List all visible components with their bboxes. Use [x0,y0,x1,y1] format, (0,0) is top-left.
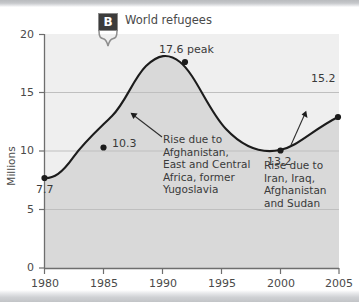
data-point-1985 [100,144,106,150]
value-label-1985: 10.3 [112,137,137,150]
x-tick-label-1980: 1980 [25,277,65,290]
x-tick-label-2000: 2000 [261,277,301,290]
annotation-right: Rise due to Iran, Iraq, Afghanistan and … [264,159,327,209]
data-point-1980 [41,175,47,181]
annotation-right-line-1: Rise due to [264,159,327,172]
annotation-left-line-4: Africa, former [163,171,250,184]
chart-title: World refugees [125,13,212,27]
data-point-2000 [277,147,283,153]
annotation-left-line-5: Yugoslavia [163,183,250,196]
value-label-peak: 17.6 peak [159,43,214,56]
data-point-2005 [335,114,341,120]
panel-badge-b: B [99,14,117,30]
annotation-right-line-2: Iran, Iraq, [264,172,327,185]
y-tick-label-20: 20 [10,28,34,41]
annotation-right-line-4: and Sudan [264,197,327,210]
figure-panel-b: B World refugees Millions 20 15 10 5 0 1… [0,0,359,302]
x-tick-label-1990: 1990 [143,277,183,290]
value-label-2005: 15.2 [311,72,336,85]
x-tick-label-1985: 1985 [84,277,124,290]
y-tick-label-0: 0 [10,261,34,274]
annotation-left-line-1: Rise due to [163,133,250,146]
y-tick-label-5: 5 [10,203,34,216]
data-point-1992-peak [182,59,188,65]
x-tick-label-2005: 2005 [319,277,359,290]
value-label-1980: 7.7 [36,183,54,196]
annotation-right-line-3: Afghanistan [264,184,327,197]
annotation-left-line-2: Afghanistan, [163,146,250,159]
annotation-left: Rise due to Afghanistan, East and Centra… [163,133,250,196]
annotation-left-line-3: East and Central [163,158,250,171]
y-tick-label-15: 15 [10,86,34,99]
x-tick-label-1995: 1995 [202,277,242,290]
y-tick-label-10: 10 [10,144,34,157]
